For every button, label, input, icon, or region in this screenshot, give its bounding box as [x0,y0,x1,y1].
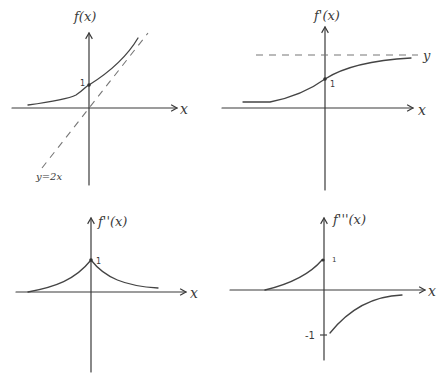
asymptote-label: y=2x [35,171,62,182]
y-axis-label: f'(x) [313,8,340,23]
intercept-point [323,77,327,81]
peak-label: 1 [96,257,101,266]
panel-f: f(x) x 1 y=2x [12,9,188,185]
x-axis-label: x [180,101,188,117]
intercept-label: 1 [330,80,335,89]
pos-limit-label: 1 [332,256,336,264]
panel-f-triple-prime: f'''(x) x 1 -1 [230,212,436,360]
x-axis-label: x [190,285,198,301]
x-axis-label: x [428,283,436,299]
f-curve [28,38,138,105]
peak-point [89,258,93,262]
y-axis-label: f'''(x) [332,212,366,227]
f-double-prime-curve [28,260,158,292]
f-prime-curve [243,58,411,102]
neg-limit-label: -1 [305,330,315,341]
intercept-point [87,83,91,87]
panel-f-double-prime: f''(x) x 1 [16,214,198,372]
asymptote-label: y [422,48,431,63]
derivative-sketches: f(x) x 1 y=2x f'(x) x 1 y f''(x) x 1 f''… [0,0,439,386]
f-triple-prime-left-branch [265,260,322,290]
y-axis-label: f(x) [73,9,96,24]
intercept-label: 1 [80,79,85,88]
left-limit-point [321,258,324,261]
x-axis-label: x [418,102,426,118]
f-triple-prime-right-branch [330,295,402,333]
y-axis-label: f''(x) [97,214,127,229]
panel-f-prime: f'(x) x 1 y [222,8,431,190]
